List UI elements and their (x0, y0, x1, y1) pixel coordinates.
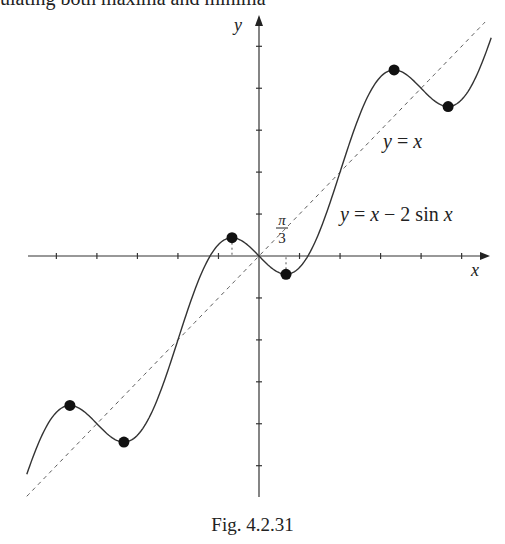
pi-over-3-denominator: 3 (278, 230, 286, 246)
extremum-point (389, 64, 400, 75)
pi-over-3-numerator: π (278, 212, 286, 228)
x-axis-label: x (470, 260, 479, 280)
extremum-point (443, 101, 454, 112)
extremum-point (281, 269, 292, 280)
function-graph: y x π 3 y = x y = x − 2 sin x (0, 0, 505, 544)
x-axis-arrow-icon (480, 252, 490, 260)
line-label: y = x (381, 130, 422, 153)
extremum-point (226, 232, 237, 243)
y-axis-label: y (232, 15, 242, 35)
line-y-equals-x (27, 22, 485, 496)
extremum-point (118, 437, 129, 448)
figure-caption: Fig. 4.2.31 (0, 514, 505, 536)
y-axis-arrow-icon (255, 15, 263, 26)
curve-label: y = x − 2 sin x (338, 203, 453, 226)
extremum-point (64, 400, 75, 411)
